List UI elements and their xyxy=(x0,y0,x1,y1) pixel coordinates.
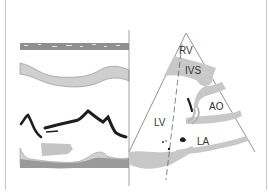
posterior-mitral-leaflet xyxy=(180,137,186,142)
chordae-echo xyxy=(41,143,73,156)
pericardium-band xyxy=(20,158,129,168)
septum-band xyxy=(20,63,129,87)
echo-diagram: RV IVS AO LV LA xyxy=(0,0,269,195)
long-axis-panel: RV IVS AO LV LA xyxy=(129,33,255,180)
sector-edge-left xyxy=(129,33,186,152)
sector-edge-right xyxy=(186,33,255,152)
m-mode-panel xyxy=(20,43,129,168)
label-ivs: IVS xyxy=(185,65,201,76)
lv-posterior-wall xyxy=(129,146,196,169)
mitral-leaflet-early xyxy=(21,115,41,137)
echo-figure: RV IVS AO LV LA xyxy=(0,0,269,195)
chordae-speck xyxy=(165,140,166,141)
anterior-mitral-leaflet xyxy=(188,99,192,111)
label-rv: RV xyxy=(179,45,193,56)
mitral-leaflet-posterior xyxy=(46,131,58,132)
label-lv: LV xyxy=(154,117,166,128)
mitral-leaflet-trace xyxy=(45,111,126,137)
label-la: LA xyxy=(197,136,210,147)
rv-wall-band xyxy=(20,43,129,50)
chordae-speck xyxy=(162,141,164,143)
label-ao: AO xyxy=(209,101,224,112)
